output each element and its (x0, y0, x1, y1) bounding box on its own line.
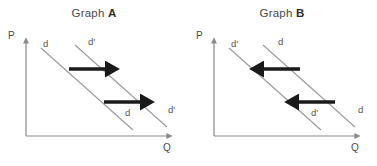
graph-a-label-top-left: d (43, 39, 48, 49)
graph-b-label-top-right: d (278, 37, 283, 47)
graph-b-plot (188, 0, 376, 166)
graph-b-label-top-left: d' (231, 39, 238, 49)
graph-a-label-top-right: d' (88, 37, 95, 47)
demand-curve-b-original (263, 45, 355, 127)
graph-b-label-bottom-right: d (358, 105, 363, 115)
demand-curve-a-original (41, 48, 133, 130)
demand-curve-b-shifted (229, 48, 321, 130)
graph-a-label-bottom-left: d (125, 108, 130, 118)
graph-panel-a: Graph A P Q d d' d d (0, 0, 188, 166)
graph-a-x-axis-label: Q (163, 143, 171, 153)
graph-a-plot (0, 0, 188, 166)
graph-b-x-axis-label: Q (351, 143, 359, 153)
figure-canvas: Graph A P Q d d' d d (0, 0, 377, 166)
graph-panel-b: Graph B P Q d' d d' (188, 0, 376, 166)
graph-a-label-bottom-right: d' (168, 105, 175, 115)
graph-b-label-bottom-left: d' (311, 108, 318, 118)
graph-a-y-axis-label: P (8, 31, 15, 41)
demand-curve-a-shifted (75, 45, 167, 127)
graph-b-y-axis-label: P (196, 31, 203, 41)
